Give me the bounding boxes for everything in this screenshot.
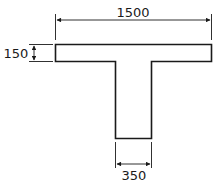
flange-width-label: 1500 bbox=[116, 5, 149, 20]
flange-thickness-label: 150 bbox=[4, 46, 29, 61]
web-width-dimension: 350 bbox=[116, 142, 152, 183]
web-width-label: 350 bbox=[122, 168, 147, 183]
flange-width-dimension: 1500 bbox=[56, 5, 212, 40]
t-section-drawing: 1500 150 350 bbox=[0, 0, 217, 191]
flange-thickness-dimension: 150 bbox=[4, 45, 53, 62]
t-section-outline bbox=[56, 45, 212, 139]
